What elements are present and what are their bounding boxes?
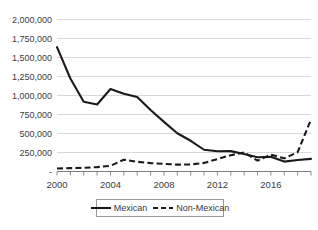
x-tick-label: 2004 <box>100 179 121 190</box>
y-tick-label: 1,250,000 <box>12 72 52 82</box>
chart-legend: Mexican Non-Mexican <box>96 199 224 217</box>
y-tick-label: 750,000 <box>19 110 52 120</box>
y-tick-label: 500,000 <box>19 129 52 139</box>
series-line-mexican <box>57 47 311 161</box>
x-tick-label: 2012 <box>207 179 228 190</box>
legend-swatch-dashed <box>153 204 173 212</box>
chart-canvas: 2,000,0001,750,0001,500,0001,250,0001,00… <box>0 0 318 230</box>
legend-label-non-mexican: Non-Mexican <box>176 203 229 213</box>
data-series <box>57 47 311 168</box>
y-tick-label: 250,000 <box>19 148 52 158</box>
y-tick-label: 1,500,000 <box>12 53 52 63</box>
x-tick-label: 2008 <box>153 179 174 190</box>
y-tick-label: - <box>49 167 52 177</box>
line-chart: 2,000,0001,750,0001,500,0001,250,0001,00… <box>0 0 318 230</box>
legend-label-mexican: Mexican <box>114 203 148 213</box>
y-axis-tick-labels: 2,000,0001,750,0001,500,0001,250,0001,00… <box>12 15 52 177</box>
x-axis <box>57 172 311 176</box>
y-tick-label: 1,750,000 <box>12 34 52 44</box>
series-line-non-mexican <box>57 119 311 168</box>
y-tick-label: 2,000,000 <box>12 15 52 25</box>
legend-item-non-mexican: Non-Mexican <box>153 203 229 213</box>
x-tick-label: 2000 <box>46 179 67 190</box>
legend-item-mexican: Mexican <box>91 203 148 213</box>
x-tick-label: 2016 <box>260 179 281 190</box>
gridlines <box>57 20 311 153</box>
x-axis-tick-labels: 20002004200820122016 <box>46 179 281 190</box>
legend-swatch-solid <box>91 204 111 212</box>
y-tick-label: 1,000,000 <box>12 91 52 101</box>
